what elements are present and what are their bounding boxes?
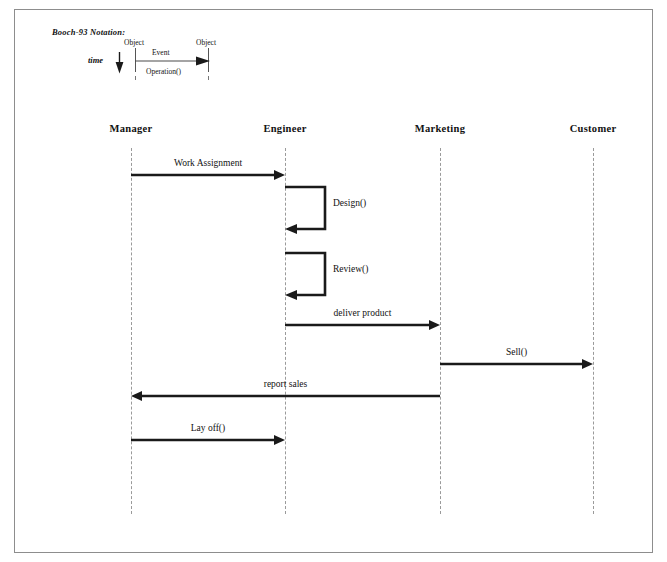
lifeline-header-customer: Customer [570, 123, 617, 134]
arrow-down-icon [115, 52, 124, 74]
message-arrow-right [285, 319, 440, 331]
lifeline-customer [593, 148, 594, 514]
lifeline-header-engineer: Engineer [263, 123, 306, 134]
legend-lifeline-right-dash [208, 76, 209, 80]
lifeline-marketing [440, 148, 441, 514]
self-message-loop [285, 250, 329, 301]
lifeline-manager [131, 148, 132, 514]
message-label: deliver product [334, 308, 392, 318]
message-arrow-left [131, 390, 440, 402]
legend-lifeline-left-dash [135, 76, 136, 80]
message-label: Lay off() [191, 423, 225, 433]
legend-object-left-label: Object [124, 38, 144, 47]
self-message-label: Design() [333, 198, 366, 208]
sequence-diagram-canvas: Booch-93 Notation: time Object Object Ev… [0, 0, 667, 562]
self-message-label: Review() [333, 264, 368, 274]
legend-object-right-label: Object [196, 38, 216, 47]
legend-time-label: time [88, 55, 103, 65]
message-arrow-right [440, 358, 593, 370]
message-label: report sales [264, 379, 308, 389]
message-label: Work Assignment [174, 158, 242, 168]
lifeline-header-manager: Manager [110, 123, 153, 134]
notation-label: Booch-93 Notation: [52, 27, 125, 37]
self-message-loop [285, 184, 329, 235]
legend-operation-label: Operation() [146, 67, 181, 76]
message-arrow-right [131, 434, 285, 446]
diagram-frame [14, 9, 653, 553]
arrow-right-icon [135, 56, 211, 66]
lifeline-header-marketing: Marketing [415, 123, 466, 134]
message-label: Sell() [506, 347, 527, 357]
message-arrow-right [131, 169, 285, 181]
